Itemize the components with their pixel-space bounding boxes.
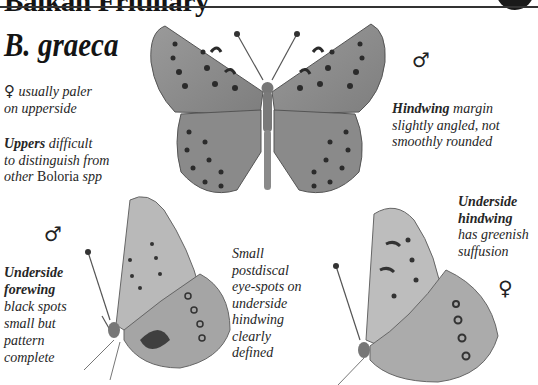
note-postdiscal: Small postdiscal eye-spots on underside … — [232, 246, 302, 362]
note-text: black spots — [4, 299, 67, 314]
note-text: margin — [453, 101, 493, 116]
note-text: on upperside — [4, 101, 77, 116]
note-text: underside — [232, 296, 287, 311]
female-symbol-icon: ♀ — [4, 82, 15, 100]
note-text: small but — [4, 316, 56, 331]
note-heading: forewing — [4, 282, 55, 297]
note-text: spp — [83, 169, 102, 184]
note-text: usually paler — [19, 84, 93, 99]
note-underside-forewing: Underside forewing black spots small but… — [4, 264, 67, 366]
note-hindwing-margin: Hindwing margin slightly angled, not smo… — [392, 101, 500, 151]
note-text: difficult — [49, 136, 93, 151]
note-text: other — [4, 169, 34, 184]
note-text: complete — [4, 350, 55, 365]
note-heading: Uppers — [4, 136, 45, 151]
male-symbol-icon: ♂ — [44, 224, 62, 244]
note-text: slightly angled, not — [392, 118, 500, 133]
note-uppers: Uppers difficult to distinguish from oth… — [4, 136, 109, 186]
note-heading: Hindwing — [392, 101, 450, 116]
note-female-paler: ♀ usually paler on upperside — [4, 83, 92, 117]
section-tab-icon — [496, 0, 534, 10]
note-heading: Underside — [4, 265, 63, 280]
butterfly-underside-female-illustration — [330, 200, 505, 385]
male-symbol-icon: ♂ — [412, 50, 430, 70]
page-header: Balkan Fritillary — [0, 0, 538, 20]
butterfly-underside-male-illustration — [80, 190, 240, 385]
note-text: smoothly rounded — [392, 134, 492, 149]
note-text: postdiscal — [232, 263, 289, 278]
header-divider — [0, 6, 538, 8]
note-text: eye-spots on — [232, 279, 302, 294]
note-text: to distinguish from — [4, 153, 109, 168]
genus-name: Boloria — [37, 169, 79, 184]
page-title: Balkan Fritillary — [4, 0, 209, 16]
species-name: B. graeca — [4, 26, 119, 64]
butterfly-upperside-illustration — [145, 22, 390, 202]
note-text: pattern — [4, 333, 44, 348]
